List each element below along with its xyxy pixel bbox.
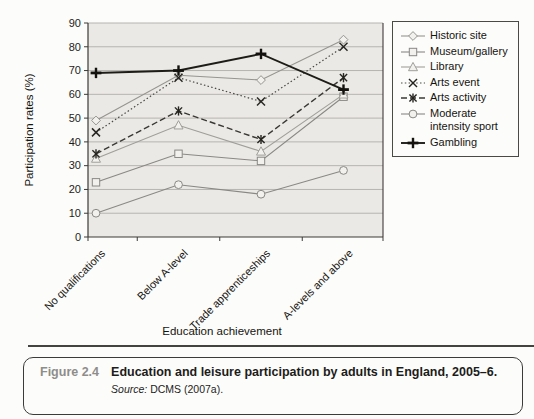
y-axis: 0102030405060708090	[69, 17, 88, 243]
legend-item-historic-site: Historic site	[400, 29, 515, 43]
y-tick-label: 90	[69, 17, 81, 29]
legend-label: Gambling	[430, 136, 477, 150]
y-tick-label: 70	[69, 64, 81, 76]
y-tick-label: 30	[69, 159, 81, 171]
x-tick-label: Below A-level	[135, 247, 190, 302]
legend-item-library: Library	[400, 60, 515, 74]
y-tick-label: 0	[75, 231, 81, 243]
figure-caption-text: Education and leisure participation by a…	[111, 364, 503, 381]
figure-page: 0102030405060708090Participation rates (…	[0, 0, 534, 419]
historic-site-marker-icon	[400, 30, 426, 42]
legend-item-museum-gallery: Museum/gallery	[400, 45, 515, 59]
x-axis-title: Education achievement	[162, 325, 282, 337]
y-tick-label: 10	[69, 207, 81, 219]
moderate-intensity-sport-marker-icon	[400, 108, 426, 120]
arts-event-marker-icon	[400, 77, 426, 89]
legend-item-gambling: Gambling	[400, 136, 515, 150]
legend-label: Arts activity	[430, 91, 486, 105]
y-tick-label: 60	[69, 88, 81, 100]
arts-activity-marker-icon	[400, 92, 426, 104]
legend-item-arts-activity: Arts activity	[400, 91, 515, 105]
y-tick-label: 50	[69, 112, 81, 124]
figure-source: Source: DCMS (2007a).	[111, 383, 512, 395]
y-tick-label: 40	[69, 136, 81, 148]
figure-caption-box: Figure 2.4 Education and leisure partici…	[23, 357, 523, 415]
legend-label: Arts event	[430, 76, 480, 90]
legend-item-moderate-intensity-sport: Moderate intensity sport	[400, 107, 515, 134]
library-marker-icon	[400, 61, 426, 73]
source-label: Source:	[111, 383, 147, 395]
chart-legend: Historic siteMuseum/galleryLibraryArts e…	[392, 21, 519, 157]
x-tick-label: No qualifications	[42, 247, 108, 313]
legend-label: Moderate intensity sport	[430, 107, 515, 134]
legend-label: Historic site	[430, 29, 487, 43]
y-tick-label: 80	[69, 41, 81, 53]
museum-gallery-marker-icon	[400, 46, 426, 58]
y-axis-title: Participation rates (%)	[23, 73, 35, 186]
y-tick-label: 20	[69, 183, 81, 195]
legend-label: Library	[430, 60, 464, 74]
legend-label: Museum/gallery	[430, 45, 508, 59]
source-text: DCMS (2007a).	[150, 383, 223, 395]
figure-caption: Education and leisure participation by a…	[111, 364, 512, 395]
legend-item-arts-event: Arts event	[400, 76, 515, 90]
x-tick-label: Trade apprenticeships	[187, 247, 273, 333]
figure-label: Figure 2.4	[40, 364, 99, 379]
x-tick-label: A-levels and above	[280, 247, 355, 322]
x-axis-labels: No qualificationsBelow A-levelTrade appr…	[42, 247, 355, 333]
chart-region: 0102030405060708090Participation rates (…	[0, 0, 534, 348]
divider-line	[28, 345, 534, 347]
gambling-marker-icon	[400, 137, 426, 149]
